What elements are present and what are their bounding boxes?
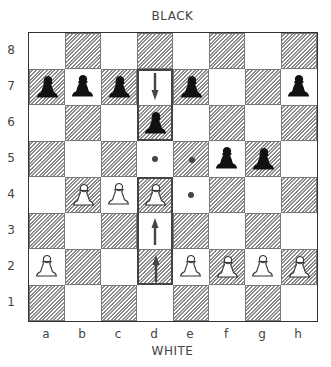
square-d2[interactable] <box>137 249 173 285</box>
target-dot-icon <box>152 156 158 162</box>
square-a7[interactable] <box>29 69 65 105</box>
rank-label-2: 2 <box>4 259 18 273</box>
square-f1[interactable] <box>209 285 245 321</box>
square-e4[interactable] <box>173 177 209 213</box>
rank-label-8: 8 <box>4 43 18 57</box>
square-b2[interactable] <box>65 249 101 285</box>
square-f7[interactable] <box>209 69 245 105</box>
white-pawn-icon[interactable] <box>245 249 281 285</box>
square-f3[interactable] <box>209 213 245 249</box>
square-d6[interactable] <box>137 105 173 141</box>
file-label-g: g <box>244 327 280 341</box>
square-b4[interactable] <box>65 177 101 213</box>
square-h1[interactable] <box>281 285 317 321</box>
square-g6[interactable] <box>245 105 281 141</box>
black-pawn-icon[interactable] <box>138 106 174 142</box>
file-label-a: a <box>28 327 64 341</box>
file-label-c: c <box>100 327 136 341</box>
black-pawn-icon[interactable] <box>102 70 138 106</box>
rank-label-6: 6 <box>4 115 18 129</box>
arrow-down-icon <box>137 69 173 105</box>
black-pawn-icon[interactable] <box>174 70 210 106</box>
square-d5[interactable] <box>137 141 173 177</box>
square-h6[interactable] <box>281 105 317 141</box>
white-side-label: WHITE <box>0 344 331 358</box>
black-pawn-icon[interactable] <box>30 70 66 106</box>
square-d8[interactable] <box>137 33 173 69</box>
black-side-label: BLACK <box>0 9 331 23</box>
black-pawn-icon[interactable] <box>65 69 101 105</box>
rank-label-4: 4 <box>4 187 18 201</box>
white-pawn-icon[interactable] <box>29 249 65 285</box>
square-g1[interactable] <box>245 285 281 321</box>
square-a8[interactable] <box>29 33 65 69</box>
square-f4[interactable] <box>209 177 245 213</box>
white-pawn-icon[interactable] <box>66 178 102 214</box>
black-pawn-icon[interactable] <box>246 142 282 178</box>
square-e6[interactable] <box>173 105 209 141</box>
square-c5[interactable] <box>101 141 137 177</box>
square-f8[interactable] <box>209 33 245 69</box>
black-pawn-icon[interactable] <box>209 141 245 177</box>
square-f5[interactable] <box>209 141 245 177</box>
square-b7[interactable] <box>65 69 101 105</box>
square-h3[interactable] <box>281 213 317 249</box>
rank-label-7: 7 <box>4 79 18 93</box>
square-d3[interactable] <box>137 213 173 249</box>
square-d1[interactable] <box>137 285 173 321</box>
square-c7[interactable] <box>101 69 137 105</box>
square-g5[interactable] <box>245 141 281 177</box>
rank-label-1: 1 <box>4 295 18 309</box>
square-a1[interactable] <box>29 285 65 321</box>
square-b8[interactable] <box>65 33 101 69</box>
file-label-f: f <box>208 327 244 341</box>
square-b3[interactable] <box>65 213 101 249</box>
file-label-h: h <box>280 327 316 341</box>
square-e2[interactable] <box>173 249 209 285</box>
square-g7[interactable] <box>245 69 281 105</box>
square-a5[interactable] <box>29 141 65 177</box>
square-c1[interactable] <box>101 285 137 321</box>
square-c6[interactable] <box>101 105 137 141</box>
square-c8[interactable] <box>101 33 137 69</box>
square-b6[interactable] <box>65 105 101 141</box>
square-h5[interactable] <box>281 141 317 177</box>
square-b1[interactable] <box>65 285 101 321</box>
square-g3[interactable] <box>245 213 281 249</box>
white-pawn-icon[interactable] <box>173 249 209 285</box>
square-e5[interactable] <box>173 141 209 177</box>
black-pawn-icon[interactable] <box>281 69 317 105</box>
white-pawn-icon[interactable] <box>138 178 174 214</box>
square-c4[interactable] <box>101 177 137 213</box>
arrow-up-icon <box>137 213 173 249</box>
square-e3[interactable] <box>173 213 209 249</box>
square-d7[interactable] <box>137 69 173 105</box>
square-f6[interactable] <box>209 105 245 141</box>
square-c3[interactable] <box>101 213 137 249</box>
square-a2[interactable] <box>29 249 65 285</box>
square-h7[interactable] <box>281 69 317 105</box>
square-h4[interactable] <box>281 177 317 213</box>
square-h8[interactable] <box>281 33 317 69</box>
rank-label-3: 3 <box>4 223 18 237</box>
square-g2[interactable] <box>245 249 281 285</box>
square-c2[interactable] <box>101 249 137 285</box>
target-dot-icon <box>188 192 194 198</box>
square-g8[interactable] <box>245 33 281 69</box>
white-pawn-icon[interactable] <box>282 250 318 286</box>
square-h2[interactable] <box>281 249 317 285</box>
file-label-b: b <box>64 327 100 341</box>
square-g4[interactable] <box>245 177 281 213</box>
square-a3[interactable] <box>29 213 65 249</box>
square-b5[interactable] <box>65 141 101 177</box>
chess-board <box>28 32 318 322</box>
square-e7[interactable] <box>173 69 209 105</box>
square-f2[interactable] <box>209 249 245 285</box>
square-d4[interactable] <box>137 177 173 213</box>
square-e8[interactable] <box>173 33 209 69</box>
square-a6[interactable] <box>29 105 65 141</box>
square-a4[interactable] <box>29 177 65 213</box>
white-pawn-icon[interactable] <box>101 177 137 213</box>
white-pawn-icon[interactable] <box>210 250 246 286</box>
square-e1[interactable] <box>173 285 209 321</box>
